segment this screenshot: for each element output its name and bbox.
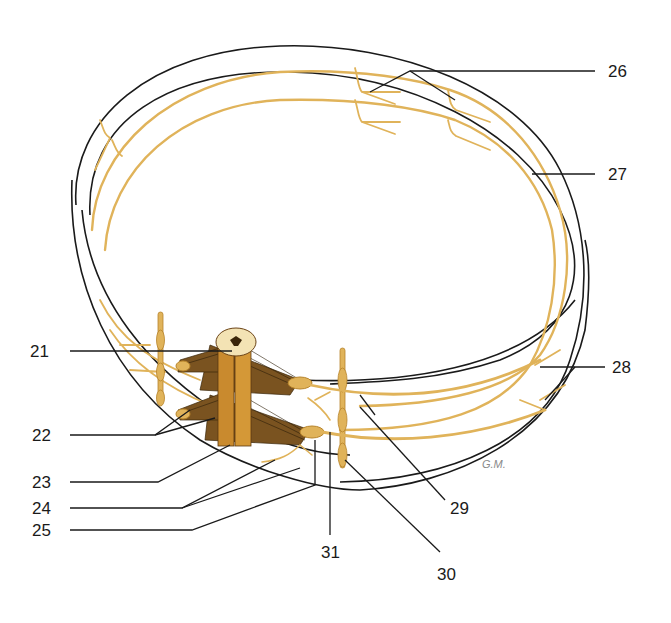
leader-25: [70, 440, 315, 530]
diagram-canvas: G.M.: [0, 0, 671, 623]
outer-edge-top: [76, 46, 584, 482]
sympathetic-chain-left: [157, 312, 165, 406]
label-24: 24: [32, 500, 51, 517]
leader-24a: [70, 460, 275, 508]
label-28: 28: [612, 359, 631, 376]
leader-30: [345, 460, 440, 552]
spinal-cord-segment: [176, 328, 324, 446]
sympathetic-chain-right: [338, 348, 347, 468]
outer-edge-left: [72, 180, 360, 490]
leader-26a: [370, 71, 595, 92]
label-30: 30: [437, 566, 456, 583]
body-wall-outline: [72, 46, 589, 490]
label-31: 31: [321, 544, 340, 561]
label-25: 25: [32, 522, 51, 539]
leader-24b: [182, 468, 300, 508]
label-29: 29: [450, 500, 469, 517]
leader-22a: [70, 410, 190, 435]
leader-23: [70, 445, 230, 482]
label-27: 27: [608, 166, 627, 183]
artist-signature: G.M.: [482, 458, 506, 470]
spinal-nerve-ring-diagram: G.M. 21 22 23 24 25 26 27 28 29 30 31: [0, 0, 671, 623]
label-23: 23: [32, 474, 51, 491]
leader-28b: [545, 367, 575, 400]
label-21: 21: [30, 343, 49, 360]
label-22: 22: [32, 427, 51, 444]
label-26: 26: [608, 63, 627, 80]
nerve-lower-out: [322, 410, 545, 439]
